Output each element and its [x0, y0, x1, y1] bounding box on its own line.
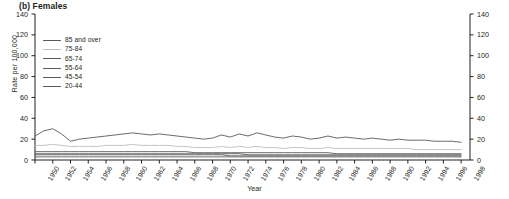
legend-item-label: 45-54	[65, 74, 82, 81]
legend-line-icon	[43, 49, 61, 50]
series-line-85-and-over	[35, 129, 461, 143]
legend-line-icon	[43, 86, 61, 87]
legend-item-label: 75-84	[65, 46, 82, 53]
legend-item-label: 85 and over	[65, 37, 101, 44]
legend-item-label: 55-64	[65, 65, 82, 72]
legend-line-icon	[43, 58, 61, 59]
legend-item: 75-84	[43, 45, 101, 54]
legend: 85 and over75-8465-7455-6445-5420-44	[43, 36, 101, 91]
legend-line-icon	[43, 77, 61, 78]
legend-line-icon	[43, 40, 61, 41]
legend-item: 65-74	[43, 54, 101, 63]
legend-line-icon	[43, 68, 61, 69]
legend-item-label: 20-44	[65, 83, 82, 90]
legend-item-label: 65-74	[65, 56, 82, 63]
legend-item: 20-44	[43, 82, 101, 91]
plot-area	[0, 0, 509, 199]
legend-item: 55-64	[43, 64, 101, 73]
chart-container: (b) Females Rate per 100,000 Year 020406…	[0, 0, 509, 199]
legend-item: 45-54	[43, 73, 101, 82]
legend-item: 85 and over	[43, 36, 101, 45]
series-line-75-84	[35, 144, 461, 149]
